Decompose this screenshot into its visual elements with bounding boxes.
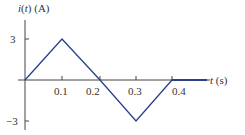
x-axis-label: t (s) — [210, 75, 227, 86]
x-tick-label-0.2: 0.2 — [86, 86, 100, 97]
y-tick-label-3: 3 — [10, 34, 16, 45]
x-tick-label-0.1: 0.1 — [54, 86, 68, 97]
x-tick-label-0.3: 0.3 — [128, 86, 142, 97]
y-axis-label: i(t) (A) — [18, 3, 50, 14]
x-tick-label-0.4: 0.4 — [172, 86, 186, 97]
y-tick-label-neg3: −3 — [6, 116, 18, 127]
chart-plot — [0, 0, 245, 135]
